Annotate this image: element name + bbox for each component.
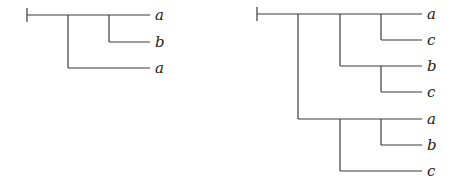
leaf-label: b [427, 136, 437, 154]
leaf-label: a [427, 110, 436, 128]
leaf-label: b [155, 33, 165, 51]
leaf-label: a [155, 6, 164, 24]
leaf-label: c [427, 31, 436, 49]
leaf-label: a [427, 5, 436, 23]
leaf-label: b [427, 57, 437, 75]
leaf-label: c [427, 162, 436, 180]
leaf-label: a [155, 59, 164, 77]
right-tree: a c b c a b c [257, 5, 437, 180]
left-tree: a b a [27, 6, 165, 77]
leaf-label: c [427, 83, 436, 101]
tree-diagrams: a b a a c b c a b c [0, 0, 458, 188]
